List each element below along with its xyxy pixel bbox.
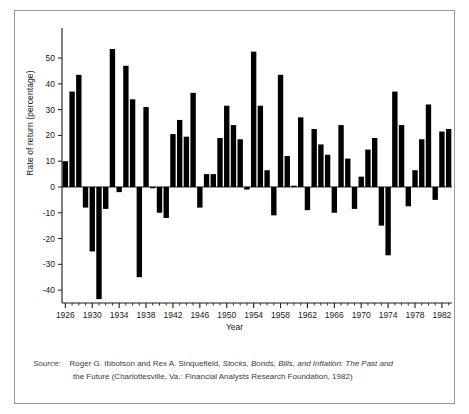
x-axis-label: Year (0, 322, 469, 332)
bar (385, 187, 390, 255)
bar (406, 187, 411, 206)
bar (412, 170, 417, 187)
x-tick-label: 1942 (163, 310, 182, 320)
bar (244, 187, 249, 190)
y-tick-label: 20 (46, 130, 56, 140)
bar (184, 137, 189, 187)
bar (116, 187, 121, 192)
bar (83, 187, 88, 208)
bar (150, 187, 155, 188)
x-tick-label: 1950 (217, 310, 236, 320)
bar (90, 187, 95, 251)
bar (439, 132, 444, 187)
bar (365, 150, 370, 187)
bar (211, 174, 216, 187)
bar (318, 144, 323, 187)
bar (170, 134, 175, 187)
bar (224, 106, 229, 187)
bar (305, 187, 310, 210)
bar (419, 139, 424, 187)
caption-authors: Roger G. Ibbotson and Rex A. Sinquefield… (70, 359, 223, 368)
bar (433, 187, 438, 200)
caption-book-title-part1: Stocks, Bonds, Bills, and Inflation: The… (223, 359, 393, 368)
y-tick-label: -10 (43, 208, 56, 218)
y-tick-label: -20 (43, 234, 56, 244)
y-tick-label: 40 (46, 79, 56, 89)
bar (426, 104, 431, 187)
x-tick-label: 1970 (352, 310, 371, 320)
caption-line-2: the Future (Charlottesville, Va.: Financ… (33, 371, 437, 384)
x-tick-label: 1946 (190, 310, 209, 320)
bar (217, 138, 222, 187)
bar (399, 125, 404, 187)
x-tick-label: 1954 (244, 310, 263, 320)
bar (251, 52, 256, 187)
bar (110, 49, 115, 187)
x-tick-label: 1926 (56, 310, 75, 320)
bar (123, 66, 128, 187)
caption-line-1: Source: Roger G. Ibbotson and Rex A. Sin… (33, 358, 437, 371)
bar (130, 99, 135, 187)
bar (271, 187, 276, 215)
x-tick-label: 1934 (110, 310, 129, 320)
bar (285, 156, 290, 187)
caption-publisher: (Charlottesville, Va.: Financial Analyst… (109, 372, 352, 381)
caption-book-title-part2: the Future (73, 372, 109, 381)
y-tick-label: 30 (46, 105, 56, 115)
caption-source-tag: Source: (33, 358, 70, 371)
bar (264, 170, 269, 187)
y-tick-label: 50 (46, 53, 56, 63)
bar (231, 125, 236, 187)
bar (137, 187, 142, 277)
source-caption: Source: Roger G. Ibbotson and Rex A. Sin… (33, 358, 437, 383)
bar (392, 92, 397, 187)
x-tick-label: 1930 (83, 310, 102, 320)
bar (76, 75, 81, 187)
y-tick-label: 0 (50, 182, 55, 192)
bar (379, 187, 384, 226)
chart-plot-area: -40-30-20-100102030405019261930193419381… (0, 0, 469, 340)
bar (446, 129, 451, 187)
caption-line-1-text: Roger G. Ibbotson and Rex A. Sinquefield… (70, 358, 437, 371)
figure-container: -40-30-20-100102030405019261930193419381… (0, 0, 469, 414)
bar (338, 125, 343, 187)
y-tick-label: -30 (43, 259, 56, 269)
bar (103, 187, 108, 209)
y-tick-label: -40 (43, 285, 56, 295)
bar (143, 107, 148, 187)
bar (372, 138, 377, 187)
bar (332, 187, 337, 213)
x-tick-label: 1978 (406, 310, 425, 320)
y-tick-label: 10 (46, 156, 56, 166)
bar (345, 159, 350, 187)
bar (311, 129, 316, 187)
bar (325, 155, 330, 187)
bar (63, 161, 68, 187)
bar (258, 106, 263, 187)
bar (298, 117, 303, 187)
x-tick-label: 1962 (298, 310, 317, 320)
bar (359, 177, 364, 187)
bar (96, 187, 101, 299)
x-tick-label: 1974 (379, 310, 398, 320)
x-tick-label: 1966 (325, 310, 344, 320)
bar (177, 120, 182, 187)
y-axis-label: Rate of return (percentage) (25, 53, 35, 193)
bar (157, 187, 162, 213)
bar (204, 174, 209, 187)
x-tick-label: 1982 (432, 310, 451, 320)
x-tick-label: 1958 (271, 310, 290, 320)
bar (164, 187, 169, 218)
bar (291, 186, 296, 187)
x-tick-label: 1938 (137, 310, 156, 320)
bar-chart-svg: -40-30-20-100102030405019261930193419381… (0, 0, 469, 340)
bar (197, 187, 202, 208)
bar (69, 92, 74, 187)
bar (278, 75, 283, 187)
bar (238, 139, 243, 187)
bar (352, 187, 357, 209)
bar (190, 93, 195, 187)
